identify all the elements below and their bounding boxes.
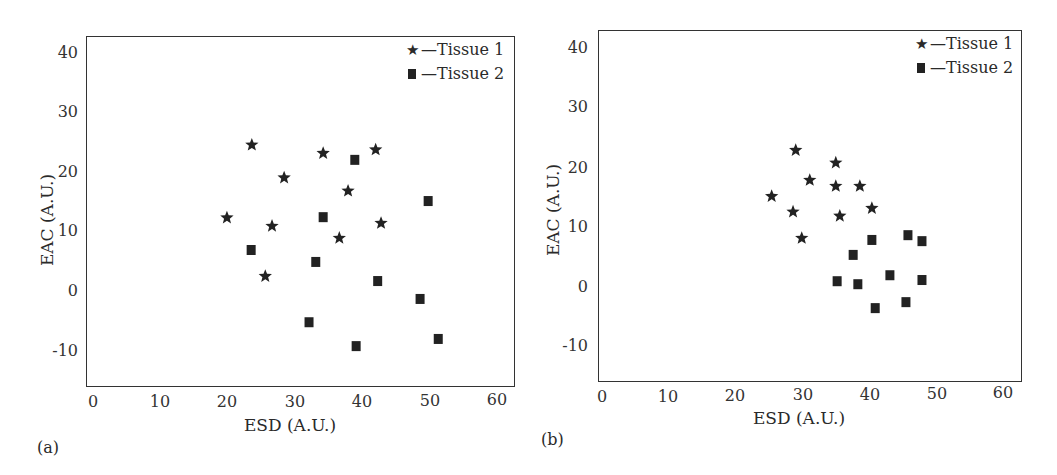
square-icon bbox=[917, 63, 925, 73]
data-point-tissue-1 bbox=[829, 179, 842, 192]
x-axis-label-b: ESD (A.U.) bbox=[753, 408, 845, 428]
data-point-tissue-2 bbox=[917, 236, 926, 246]
y-tick: 40 bbox=[548, 38, 588, 57]
legend-b: ★ —Tissue 1 —Tissue 2 bbox=[914, 32, 1013, 80]
data-point-tissue-1 bbox=[833, 209, 846, 222]
panel-label-b: (b) bbox=[541, 430, 564, 449]
data-point-tissue-1 bbox=[853, 179, 866, 192]
x-tick: 30 bbox=[793, 385, 813, 404]
scatter-points-b bbox=[0, 0, 1057, 475]
data-point-tissue-2 bbox=[901, 297, 910, 307]
x-tick: 0 bbox=[597, 387, 607, 406]
data-point-tissue-2 bbox=[853, 279, 862, 289]
chart-panel-b: ★ —Tissue 1 —Tissue 2 40 30 20 10 0 -10 … bbox=[0, 0, 1057, 475]
data-point-tissue-2 bbox=[917, 275, 926, 285]
data-point-tissue-1 bbox=[765, 189, 778, 202]
data-point-tissue-1 bbox=[795, 231, 808, 244]
star-icon: ★ bbox=[914, 32, 928, 56]
y-tick: 30 bbox=[548, 97, 588, 116]
legend-item-tissue-1: ★ —Tissue 1 bbox=[914, 32, 1013, 56]
x-tick: 50 bbox=[927, 384, 947, 403]
y-axis-label-b: EAC (A.U.) bbox=[543, 164, 563, 256]
data-point-tissue-2 bbox=[849, 250, 858, 260]
data-point-tissue-2 bbox=[833, 276, 842, 286]
x-tick: 20 bbox=[725, 386, 745, 405]
legend-label: —Tissue 1 bbox=[930, 32, 1013, 56]
data-point-tissue-2 bbox=[885, 270, 894, 280]
legend-item-tissue-2: —Tissue 2 bbox=[914, 56, 1013, 80]
x-tick: 10 bbox=[658, 387, 678, 406]
y-tick: -10 bbox=[548, 336, 588, 355]
data-point-tissue-1 bbox=[786, 205, 799, 218]
data-point-tissue-2 bbox=[871, 303, 880, 313]
data-point-tissue-1 bbox=[865, 201, 878, 214]
data-point-tissue-1 bbox=[829, 156, 842, 169]
x-tick: 60 bbox=[993, 383, 1013, 402]
x-tick: 40 bbox=[860, 385, 880, 404]
data-point-tissue-2 bbox=[903, 230, 912, 240]
data-point-tissue-1 bbox=[789, 143, 802, 156]
legend-label: —Tissue 2 bbox=[930, 56, 1013, 80]
data-point-tissue-1 bbox=[803, 173, 816, 186]
y-tick: 0 bbox=[548, 277, 588, 296]
data-point-tissue-2 bbox=[867, 235, 876, 245]
